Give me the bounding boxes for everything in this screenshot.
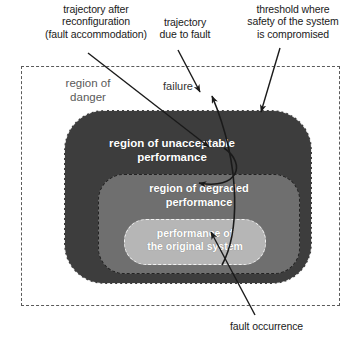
- region-of-danger-label: region of danger: [33, 76, 143, 104]
- failure-label: failure: [150, 80, 206, 93]
- region-of-original-system-label: performance of the original system: [128, 227, 262, 253]
- fault-occurrence-label: fault occurrence: [230, 320, 356, 332]
- threshold-label: threshold where safety of the system is …: [226, 3, 360, 40]
- diagram-canvas: region of danger region of unacceptable …: [0, 0, 362, 341]
- region-of-unacceptable-performance-label: region of unacceptable performance: [72, 136, 272, 164]
- region-of-degraded-performance-label: region of degraded performance: [104, 182, 294, 209]
- trajectory-due-to-fault-label: trajectory due to fault: [146, 16, 224, 41]
